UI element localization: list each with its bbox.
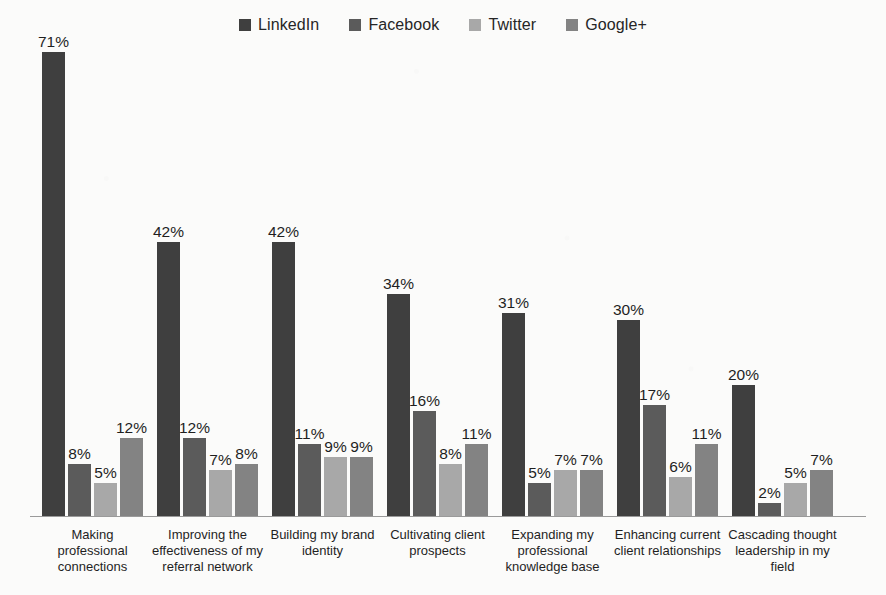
bar-slot: 8%	[68, 52, 91, 516]
chart-legend: LinkedInFacebookTwitterGoogle+	[0, 16, 886, 34]
bar-value-label: 17%	[639, 387, 670, 403]
bar-value-label: 71%	[38, 34, 69, 50]
bar-slot: 7%	[810, 52, 833, 516]
bar-linkedin[interactable]	[387, 294, 410, 516]
bar-twitter[interactable]	[94, 483, 117, 516]
bar-facebook[interactable]	[183, 438, 206, 516]
bar-facebook[interactable]	[643, 405, 666, 516]
bar-value-label: 42%	[153, 224, 184, 240]
category-label-line: professional	[488, 543, 618, 559]
bar-linkedin[interactable]	[157, 242, 180, 516]
bar-facebook[interactable]	[528, 483, 551, 516]
bar-value-label: 20%	[728, 367, 759, 383]
category-label-line: Cultivating client	[373, 527, 503, 543]
bar-google-[interactable]	[120, 438, 143, 516]
category-label-line: knowledge base	[488, 559, 618, 575]
bar-twitter[interactable]	[324, 457, 347, 516]
category-label: Building my brandidentity	[258, 527, 388, 559]
bar-twitter[interactable]	[209, 470, 232, 516]
category-label: Cascading thoughtleadership in myfield	[718, 527, 848, 575]
legend-label: Google+	[585, 16, 647, 34]
bar-slot: 7%	[554, 52, 577, 516]
bar-slot: 12%	[183, 52, 206, 516]
category-label-line: effectiveness of my	[143, 543, 273, 559]
bar-value-label: 34%	[383, 276, 414, 292]
bar-linkedin[interactable]	[272, 242, 295, 516]
bar-google-[interactable]	[350, 457, 373, 516]
legend-entry-linkedin[interactable]: LinkedIn	[239, 16, 319, 34]
bar-group: 42%12%7%8%	[157, 52, 258, 516]
bar-facebook[interactable]	[68, 464, 91, 516]
bar-google-[interactable]	[695, 444, 718, 516]
category-label-line: referral network	[143, 559, 273, 575]
legend-entry-twitter[interactable]: Twitter	[469, 16, 536, 34]
legend-swatch-icon	[566, 19, 578, 31]
bar-value-label: 8%	[439, 446, 461, 462]
bar-value-label: 16%	[409, 393, 440, 409]
category-label-line: field	[718, 559, 848, 575]
bar-slot: 30%	[617, 52, 640, 516]
bar-facebook[interactable]	[758, 503, 781, 516]
bar-value-label: 7%	[209, 452, 231, 468]
category-label: Improving theeffectiveness of myreferral…	[143, 527, 273, 575]
category-label-line: client relationships	[603, 543, 733, 559]
bar-group: 31%5%7%7%	[502, 52, 603, 516]
bar-slot: 7%	[580, 52, 603, 516]
bar-slot: 11%	[695, 52, 718, 516]
bar-google-[interactable]	[580, 470, 603, 516]
bar-google-[interactable]	[465, 444, 488, 516]
bar-value-label: 11%	[295, 426, 325, 442]
bar-twitter[interactable]	[669, 477, 692, 516]
category-label-line: professional	[28, 543, 158, 559]
bar-twitter[interactable]	[784, 483, 807, 516]
bar-slot: 31%	[502, 52, 525, 516]
bar-slot: 2%	[758, 52, 781, 516]
bar-value-label: 6%	[669, 459, 691, 475]
bar-twitter[interactable]	[439, 464, 462, 516]
legend-label: Twitter	[488, 16, 536, 34]
bar-slot: 9%	[350, 52, 373, 516]
bar-slot: 17%	[643, 52, 666, 516]
bar-group: 30%17%6%11%	[617, 52, 718, 516]
bar-value-label: 8%	[235, 446, 257, 462]
bar-value-label: 7%	[580, 452, 602, 468]
bar-linkedin[interactable]	[42, 52, 65, 516]
bar-facebook[interactable]	[298, 444, 321, 516]
bar-linkedin[interactable]	[502, 313, 525, 516]
category-label: Makingprofessionalconnections	[28, 527, 158, 575]
legend-label: LinkedIn	[258, 16, 319, 34]
bar-value-label: 7%	[554, 452, 576, 468]
bar-google-[interactable]	[235, 464, 258, 516]
bar-value-label: 42%	[268, 224, 299, 240]
bar-google-[interactable]	[810, 470, 833, 516]
legend-entry-google-[interactable]: Google+	[566, 16, 647, 34]
bar-value-label: 11%	[462, 426, 492, 442]
bar-slot: 12%	[120, 52, 143, 516]
bar-linkedin[interactable]	[732, 385, 755, 516]
bar-slot: 5%	[94, 52, 117, 516]
bar-value-label: 8%	[68, 446, 90, 462]
bar-twitter[interactable]	[554, 470, 577, 516]
category-label-line: prospects	[373, 543, 503, 559]
bar-value-label: 31%	[498, 295, 529, 311]
category-label-line: Building my brand	[258, 527, 388, 543]
category-label-line: Making	[28, 527, 158, 543]
bar-value-label: 30%	[613, 302, 644, 318]
bar-facebook[interactable]	[413, 411, 436, 516]
bar-slot: 42%	[272, 52, 295, 516]
category-label-line: Expanding my	[488, 527, 618, 543]
bar-value-label: 5%	[528, 465, 550, 481]
bar-value-label: 12%	[179, 420, 210, 436]
legend-swatch-icon	[349, 19, 361, 31]
bar-slot: 5%	[784, 52, 807, 516]
bar-slot: 20%	[732, 52, 755, 516]
category-label: Enhancing currentclient relationships	[603, 527, 733, 559]
category-label-line: leadership in my	[718, 543, 848, 559]
bar-group: 34%16%8%11%	[387, 52, 488, 516]
bar-slot: 9%	[324, 52, 347, 516]
bar-slot: 11%	[465, 52, 488, 516]
legend-entry-facebook[interactable]: Facebook	[349, 16, 439, 34]
category-label-line: Cascading thought	[718, 527, 848, 543]
bar-linkedin[interactable]	[617, 320, 640, 516]
bar-value-label: 9%	[324, 439, 346, 455]
